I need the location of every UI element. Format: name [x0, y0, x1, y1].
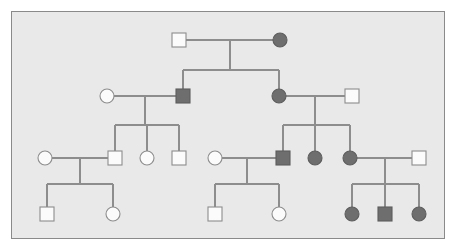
person-iii-7-affected-female: [308, 151, 322, 165]
person-iv-5-affected-female: [345, 207, 359, 221]
person-iv-3-unaffected-male: [208, 207, 222, 221]
person-ii-2-affected-male: [176, 89, 190, 103]
person-iii-1-unaffected-female: [38, 151, 52, 165]
person-iii-8-affected-female: [343, 151, 357, 165]
pedigree-lines-layer: [47, 40, 419, 207]
person-iii-2-unaffected-male: [108, 151, 122, 165]
person-ii-4-unaffected-male: [345, 89, 359, 103]
person-i-1-unaffected-male: [172, 33, 186, 47]
person-iii-6-affected-male: [276, 151, 290, 165]
person-iv-1-unaffected-male: [40, 207, 54, 221]
pedigree-diagram: [0, 0, 458, 252]
person-iv-7-affected-female: [412, 207, 426, 221]
person-iii-9-unaffected-male: [412, 151, 426, 165]
person-i-2-affected-female: [273, 33, 287, 47]
pedigree-page: [0, 0, 458, 252]
person-iii-5-unaffected-female: [208, 151, 222, 165]
person-iv-4-unaffected-female: [272, 207, 286, 221]
pedigree-symbols-layer: [38, 33, 426, 221]
person-ii-1-unaffected-female: [100, 89, 114, 103]
person-iv-6-affected-male: [378, 207, 392, 221]
person-ii-3-affected-female: [272, 89, 286, 103]
person-iii-4-unaffected-male: [172, 151, 186, 165]
person-iv-2-unaffected-female: [106, 207, 120, 221]
person-iii-3-unaffected-female: [140, 151, 154, 165]
